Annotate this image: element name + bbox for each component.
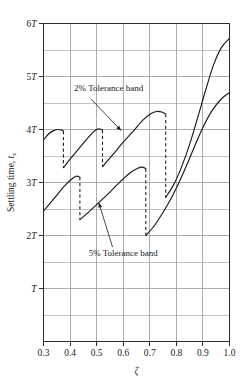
x-tick-label: 1.0 (224, 348, 236, 358)
x-tick-label: 0.5 (91, 348, 103, 358)
annotation-label: 2% Tolerance band (74, 83, 144, 93)
chart-figure: 0.30.40.50.60.70.80.91.0 T2T3T4T5T6T 2% … (0, 0, 248, 387)
x-tick-label: 0.6 (117, 348, 129, 358)
x-tick-label: 0.9 (197, 348, 209, 358)
x-tick-label: 0.4 (64, 348, 76, 358)
y-tick-label: 3T (26, 178, 37, 188)
x-axis-title: ζ (135, 366, 140, 377)
x-tick-label: 0.8 (170, 348, 182, 358)
x-tick-label: 0.3 (38, 348, 50, 358)
y-axis-tick-labels: T2T3T4T5T6T (26, 19, 37, 294)
y-tick-label: 6T (26, 19, 37, 29)
x-axis-tick-labels: 0.30.40.50.60.70.80.91.0 (38, 348, 236, 358)
settling-time-chart: 0.30.40.50.60.70.80.91.0 T2T3T4T5T6T 2% … (0, 0, 248, 387)
annotation-label: 5% Tolerance band (89, 248, 159, 258)
y-tick-label: 4T (26, 125, 37, 135)
y-tick-label: 5T (26, 72, 37, 82)
y-axis-title: Settling time, ts (6, 153, 18, 212)
x-tick-label: 0.7 (144, 348, 156, 358)
y-tick-label: 2T (26, 231, 37, 241)
y-tick-label: T (31, 284, 37, 294)
